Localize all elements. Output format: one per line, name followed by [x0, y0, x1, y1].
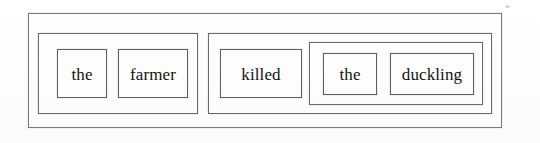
word-label-the-2: the — [324, 66, 376, 83]
word-box-duckling: duckling — [390, 53, 474, 95]
verb-phrase-box: killed the duckling — [208, 33, 492, 114]
word-box-the-1: the — [57, 49, 107, 98]
noun-phrase-subject-box: the farmer — [38, 33, 198, 114]
noun-phrase-object-box: the duckling — [309, 42, 483, 105]
word-label-farmer: farmer — [119, 65, 187, 82]
word-box-the-2: the — [323, 53, 377, 95]
word-label-duckling: duckling — [391, 66, 473, 83]
word-box-killed: killed — [220, 49, 302, 98]
word-box-farmer: farmer — [118, 49, 188, 98]
scan-artifact-speck — [505, 5, 510, 8]
word-label-the-1: the — [58, 65, 106, 82]
word-label-killed: killed — [221, 65, 301, 82]
sentence-box: the farmer killed the duckling — [28, 13, 502, 128]
